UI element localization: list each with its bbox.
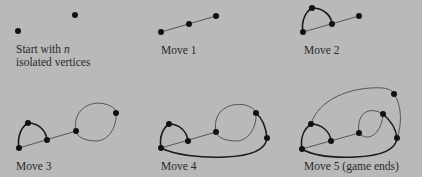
edge — [161, 138, 267, 157]
edge — [359, 111, 383, 133]
edge — [28, 123, 47, 140]
vertex — [380, 111, 386, 117]
panel-move2-graph — [300, 5, 362, 35]
panel-move5-graph — [299, 88, 400, 157]
vertex — [308, 121, 314, 127]
edge — [302, 138, 397, 157]
vertex — [391, 91, 397, 97]
edge — [359, 114, 383, 137]
caption-start: Start with n isolated vertices — [16, 43, 90, 69]
edge — [301, 124, 311, 149]
caption-move5-text: Move 5 (game ends) — [304, 160, 399, 172]
panel-start-graph — [15, 12, 78, 34]
edge — [216, 113, 256, 141]
caption-move5: Move 5 (game ends) — [304, 160, 399, 173]
vertex — [44, 137, 50, 143]
caption-move1: Move 1 — [161, 44, 196, 57]
edge — [311, 124, 331, 141]
vertex — [185, 138, 191, 144]
vertex — [300, 29, 306, 35]
vertex — [253, 110, 259, 116]
edge — [169, 124, 188, 141]
edge — [75, 103, 116, 131]
vertex — [16, 145, 22, 151]
caption-move3-text: Move 3 — [16, 160, 51, 172]
caption-move2-text: Move 2 — [304, 44, 339, 56]
edge — [215, 104, 256, 132]
vertex — [299, 146, 305, 152]
panel-move3-graph — [16, 103, 119, 151]
edge — [256, 113, 267, 138]
edge — [76, 113, 116, 141]
vertex — [166, 121, 172, 127]
vertex — [25, 120, 31, 126]
vertex — [72, 12, 78, 18]
vertex — [264, 135, 270, 141]
edge — [312, 8, 332, 24]
caption-move4-text: Move 4 — [161, 160, 196, 172]
sprouts-game-diagram — [0, 0, 422, 177]
edge — [311, 88, 394, 124]
edge — [302, 8, 312, 32]
vertex — [15, 28, 21, 34]
edge — [18, 123, 28, 148]
vertex — [329, 21, 335, 27]
edge — [160, 124, 169, 148]
caption-move1-text: Move 1 — [161, 44, 196, 56]
vertex — [113, 110, 119, 116]
edge — [383, 114, 397, 138]
caption-move3: Move 3 — [16, 160, 51, 173]
vertex — [328, 138, 334, 144]
vertex — [186, 21, 192, 27]
caption-start-text: Start with — [16, 43, 64, 55]
caption-start-var: n — [64, 43, 70, 55]
vertex — [213, 13, 219, 19]
panel-move4-graph — [158, 104, 270, 157]
caption-start-line2: isolated vertices — [16, 56, 90, 68]
panel-move1-graph — [158, 13, 219, 35]
vertex — [356, 13, 362, 19]
vertex — [158, 145, 164, 151]
caption-move2: Move 2 — [304, 44, 339, 57]
vertex — [356, 130, 362, 136]
vertex — [158, 29, 164, 35]
vertex — [213, 129, 219, 135]
vertex — [309, 5, 315, 11]
vertex — [394, 135, 400, 141]
vertex — [73, 128, 79, 134]
caption-move4: Move 4 — [161, 160, 196, 173]
